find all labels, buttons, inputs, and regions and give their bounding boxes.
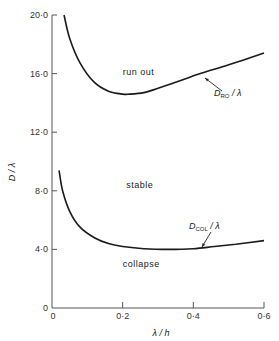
region-label-run-out: run out: [123, 67, 155, 77]
x-tick-label: 0·2: [116, 311, 129, 321]
curve-collapse: [59, 170, 264, 249]
x-tick-label: 0: [50, 311, 55, 321]
x-axis-label: λ / h: [152, 328, 170, 338]
series-label-d-col: DCOL / λ: [189, 221, 220, 232]
x-tick-label: 0·6: [257, 311, 270, 321]
region-label-stable: stable: [126, 180, 153, 190]
y-tick-label: 4·0: [35, 244, 48, 254]
y-tick-label: 8·0: [35, 186, 48, 196]
y-axis-label: D / λ: [7, 163, 17, 181]
y-tick-label: 0: [43, 303, 48, 313]
x-tick-label: 0·4: [187, 311, 200, 321]
curve-run-out: [64, 15, 264, 94]
stability-chart: 04·08·012·016·020·000·20·40·6 λ / hD / λ…: [0, 0, 279, 341]
curves: [59, 15, 264, 249]
y-tick-label: 20·0: [30, 10, 48, 20]
y-tick-label: 16·0: [30, 69, 48, 79]
y-tick-label: 12·0: [30, 127, 48, 137]
axes: 04·08·012·016·020·000·20·40·6: [30, 10, 271, 321]
region-label-collapse: collapse: [123, 259, 160, 269]
series-label-d-ro: DRO / λ: [214, 88, 241, 99]
labels: λ / hD / λrun outstablecollapseDRO / λDC…: [7, 67, 241, 338]
